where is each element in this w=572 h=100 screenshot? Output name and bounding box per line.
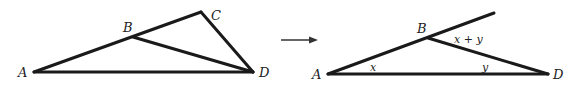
label-D-left: D: [258, 65, 270, 80]
angle-label-x: x: [370, 61, 377, 74]
segment-AC: [34, 12, 201, 72]
label-A-right: A: [311, 67, 321, 82]
left-figure: A B C D: [17, 8, 270, 80]
label-D-right: D: [552, 67, 564, 82]
label-C-left: C: [211, 8, 221, 23]
angle-label-y: y: [481, 61, 489, 74]
label-A-left: A: [17, 65, 27, 80]
segment-BD: [133, 37, 253, 72]
label-B-right: B: [416, 21, 427, 36]
right-arrow-icon: [281, 37, 318, 44]
right-figure: A B D x y x + y: [311, 13, 564, 82]
angle-label-x-plus-y: x + y: [454, 33, 483, 46]
label-B-left: B: [122, 20, 133, 35]
diagram-canvas: A B C D A B D x y x + y: [0, 0, 572, 100]
